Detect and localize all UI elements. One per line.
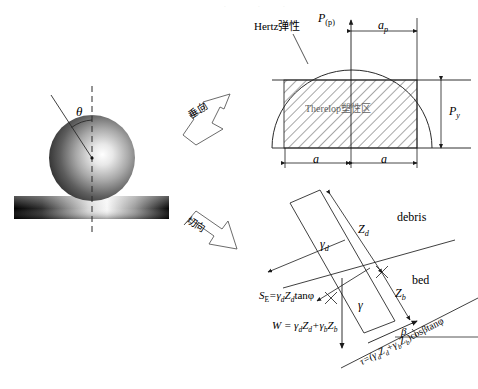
gamma-d-arrow bbox=[268, 240, 345, 272]
se-tan: tanφ bbox=[294, 289, 314, 301]
svg-text:.: . bbox=[283, 1, 285, 9]
gamma-label: γ bbox=[358, 299, 363, 311]
gamma-d-subscript: d bbox=[325, 244, 329, 253]
column-bottom-cap bbox=[364, 321, 395, 333]
zd-symbol: Z bbox=[358, 222, 365, 236]
normal-direction-arrow bbox=[183, 94, 230, 145]
hertz-elastic-text: Hertz弹性 bbox=[254, 20, 300, 32]
w-plus: +γ bbox=[312, 319, 324, 331]
zb-subscript: b bbox=[402, 293, 406, 302]
bed-region-label: bed bbox=[412, 274, 429, 286]
zb-label: Zb bbox=[395, 287, 406, 303]
hertz-label-leader bbox=[293, 34, 308, 64]
se-gamma: =γ bbox=[269, 289, 281, 301]
svg-text:.: . bbox=[224, 1, 226, 9]
sphere-center-dot bbox=[90, 156, 93, 159]
pressure-axis-subscript: (p) bbox=[325, 18, 335, 27]
se-arrow bbox=[317, 268, 370, 301]
ap-subscript: p bbox=[384, 25, 388, 34]
column-top-cap bbox=[290, 190, 320, 203]
zd-arrow bbox=[330, 194, 382, 273]
svg-text:.: . bbox=[258, 1, 260, 9]
ap-label: ap bbox=[378, 19, 388, 35]
left-sphere-group bbox=[14, 86, 169, 236]
py-subscript: y bbox=[456, 111, 460, 120]
gamma-d-label: γd bbox=[320, 238, 329, 254]
zd-subscript: d bbox=[365, 229, 369, 238]
theta-label: θ bbox=[76, 105, 82, 118]
w-lead: W = γ bbox=[272, 319, 298, 331]
w-equation: W = γdZd+γbZb bbox=[272, 320, 337, 334]
w-zb-sub: b bbox=[334, 325, 338, 334]
hertz-panel-group bbox=[272, 18, 471, 168]
plastic-zone-label: Therelop塑性区 bbox=[305, 104, 371, 114]
plastic-zone-rect bbox=[284, 80, 417, 148]
zb-symbol: Z bbox=[395, 286, 402, 300]
intersection-marks bbox=[325, 266, 388, 304]
py-label: Py bbox=[449, 105, 460, 121]
debris-region-label: debris bbox=[397, 211, 426, 223]
shear-panel-group bbox=[268, 190, 478, 368]
column-left-edge bbox=[290, 203, 364, 333]
a-right-label: a bbox=[381, 153, 387, 165]
zd-label: Zd bbox=[358, 223, 369, 239]
a-left-label: a bbox=[313, 153, 319, 165]
pressure-axis-label: P(p) bbox=[318, 12, 335, 28]
top-crop-marks: . . . bbox=[224, 1, 285, 9]
figure-canvas: . . . bbox=[0, 0, 478, 389]
se-equation: SE=γdZdtanφ bbox=[259, 290, 314, 304]
hertz-elastic-label: Hertz弹性 bbox=[254, 21, 300, 32]
